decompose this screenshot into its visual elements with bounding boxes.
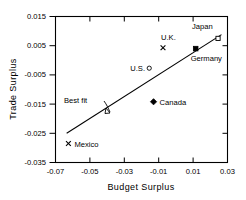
y-axis-ticks-right (223, 46, 228, 134)
open-circle-marker (147, 66, 151, 70)
data-point-germany: Germany (191, 46, 222, 62)
data-point-japan: Japan (192, 22, 220, 40)
x-tick-label-5: 0.03 (220, 167, 235, 176)
y-tick-label-1: 0.005 (27, 41, 46, 50)
y-tick-label-0: 0.015 (27, 12, 46, 21)
cross-marker (161, 45, 166, 50)
data-point-us: U.S. (130, 64, 151, 73)
open-square-marker (216, 36, 220, 40)
x-tick-label-2: -0.03 (116, 167, 133, 176)
data-point-label: U.S. (130, 64, 145, 73)
y-axis-title: Trade Surplus (8, 58, 18, 119)
data-point-label: U.K. (161, 33, 176, 42)
y-tick-label-2: -0.005 (24, 70, 46, 79)
data-point-label: Japan (192, 22, 213, 31)
y-tick-label-4: -0.025 (24, 129, 46, 138)
data-point-label: Germany (191, 54, 222, 63)
cross-marker (66, 141, 71, 146)
x-tick-label-4: 0.01 (186, 167, 201, 176)
chart-canvas: 0.015 0.005 -0.005 -0.015 -0.025 -0.035 … (0, 0, 246, 200)
data-point-canada: Canada (150, 98, 186, 107)
best-fit-label: Best fit (64, 96, 88, 105)
x-tick-label-3: -0.01 (150, 167, 167, 176)
data-points-layer: JapanGermanyU.K.U.S.CanadaMexico (66, 22, 222, 148)
data-point-label: Canada (160, 98, 187, 107)
data-point-uk: U.K. (161, 33, 176, 50)
x-tick-label-0: -0.07 (47, 167, 64, 176)
trade-vs-budget-surplus-chart: 0.015 0.005 -0.005 -0.015 -0.025 -0.035 … (0, 0, 246, 200)
y-tick-label-5: -0.035 (24, 158, 46, 167)
x-tick-label-1: -0.05 (81, 167, 98, 176)
y-tick-label-3: -0.015 (24, 100, 46, 109)
data-point-label: Mexico (74, 140, 98, 149)
filled-diamond-marker (150, 99, 156, 105)
filled-square-marker (193, 46, 198, 51)
x-axis-ticks-top (90, 17, 193, 22)
y-axis-ticks (50, 17, 56, 163)
data-point-mexico: Mexico (66, 140, 98, 149)
x-axis-ticks (56, 158, 228, 163)
x-axis-title: Budget Surplus (107, 182, 174, 192)
